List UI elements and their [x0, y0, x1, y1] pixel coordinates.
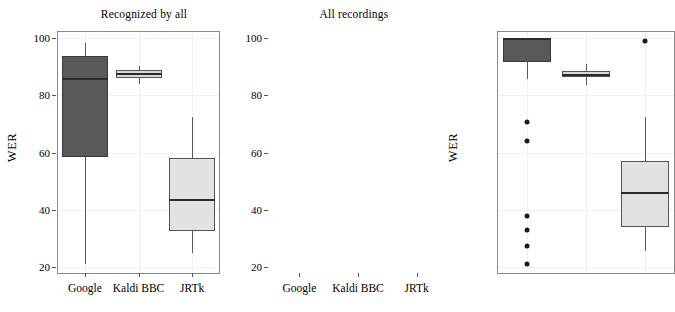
- y-tick-mark: [264, 210, 268, 211]
- whisker-upper: [645, 117, 646, 161]
- median-line: [562, 74, 610, 76]
- y-tick-mark: [52, 38, 56, 39]
- y-tick-label: 60: [236, 147, 262, 158]
- outlier-point: [525, 120, 530, 125]
- x-tick-label-jrtk: JRTk: [180, 282, 204, 294]
- y-tick-label: 40: [24, 204, 50, 215]
- whisker-upper: [192, 117, 193, 159]
- whisker-lower: [645, 227, 646, 251]
- y-tick-mark: [52, 267, 56, 268]
- y-axis-title-right: WER: [446, 128, 461, 168]
- x-tick-label-google: Google: [282, 282, 316, 294]
- median-line: [169, 199, 215, 201]
- panel-title-left: Recognized by all: [0, 8, 258, 20]
- outlier-point: [642, 38, 647, 43]
- x-tick-mark: [358, 273, 359, 277]
- x-tick-mark: [192, 273, 193, 277]
- whisker-lower: [192, 231, 193, 253]
- panel-title-right: All recordings: [228, 8, 468, 20]
- y-tick-mark: [52, 95, 56, 96]
- y-tick-label: 80: [236, 90, 262, 101]
- y-tick-label: 40: [236, 204, 262, 215]
- y-tick-mark: [264, 95, 268, 96]
- box-google: [503, 38, 551, 62]
- y-tick-label: 20: [24, 262, 50, 273]
- y-tick-mark: [264, 267, 268, 268]
- whisker-upper: [85, 43, 86, 56]
- whisker-lower: [586, 77, 587, 85]
- x-tick-mark: [85, 273, 86, 277]
- x-tick-mark: [139, 273, 140, 277]
- x-tick-label-kaldi-bbc: Kaldi BBC: [113, 282, 164, 294]
- y-tick-mark: [264, 38, 268, 39]
- y-tick-mark: [52, 210, 56, 211]
- y-tick-label: 100: [24, 32, 50, 43]
- outlier-point: [525, 262, 530, 267]
- outlier-point: [525, 213, 530, 218]
- y-tick-label: 100: [236, 32, 262, 43]
- box-jrtk: [169, 158, 215, 231]
- median-line: [116, 73, 162, 75]
- y-tick-label: 20: [236, 262, 262, 273]
- box-google: [62, 56, 108, 156]
- plot-area-left: [57, 31, 220, 274]
- whisker-lower: [139, 78, 140, 84]
- median-line: [503, 38, 551, 40]
- median-line: [62, 78, 108, 80]
- x-tick-label-kaldi-bbc: Kaldi BBC: [332, 282, 383, 294]
- whisker-upper: [586, 64, 587, 71]
- y-tick-label: 80: [24, 90, 50, 101]
- outlier-point: [525, 139, 530, 144]
- panel-all-recordings: All recordings WER: [228, 0, 456, 312]
- whisker-lower: [85, 157, 86, 265]
- x-tick-label-google: Google: [68, 282, 102, 294]
- box-jrtk: [621, 161, 669, 227]
- x-tick-mark: [417, 273, 418, 277]
- y-tick-mark: [264, 153, 268, 154]
- x-tick-mark: [299, 273, 300, 277]
- whisker-lower: [527, 62, 528, 79]
- median-line: [621, 192, 669, 194]
- y-tick-label: 60: [24, 147, 50, 158]
- y-tick-mark: [52, 153, 56, 154]
- x-tick-label-jrtk: JRTk: [405, 282, 429, 294]
- y-axis-title-left: WER: [5, 128, 20, 168]
- outlier-point: [525, 243, 530, 248]
- plot-area-right: [497, 31, 675, 274]
- outlier-point: [525, 227, 530, 232]
